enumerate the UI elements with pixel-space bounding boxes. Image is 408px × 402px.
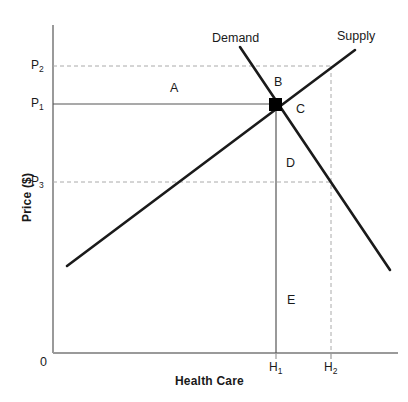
- region-label-e: E: [287, 294, 295, 307]
- y-tick-label-p2-base: P: [31, 58, 39, 72]
- x-axis-title: Health Care: [175, 375, 244, 387]
- y-tick-label-p3-sub: 3: [39, 180, 44, 190]
- y-tick-label-p1: P1: [31, 97, 44, 109]
- y-tick-label-p2: P2: [31, 59, 44, 71]
- supply-curve-label: Supply: [337, 30, 375, 43]
- equilibrium-point-marker: [269, 98, 282, 111]
- y-tick-label-p1-base: P: [31, 96, 39, 110]
- x-tick-label-h1-sub: 1: [278, 366, 283, 376]
- region-label-b: B: [274, 76, 282, 89]
- x-tick-label-h2-base: H: [324, 360, 333, 374]
- x-tick-label-h2-sub: 2: [333, 366, 338, 376]
- region-label-c: C: [296, 103, 305, 116]
- x-tick-label-h1: H1: [269, 361, 282, 373]
- region-label-a: A: [170, 82, 178, 95]
- y-tick-label-p3: P3: [31, 175, 44, 187]
- chart-canvas: [0, 0, 408, 402]
- y-tick-label-p3-base: P: [31, 174, 39, 188]
- supply-curve: [67, 50, 355, 266]
- origin-label: 0: [40, 356, 47, 369]
- x-tick-label-h1-base: H: [269, 360, 278, 374]
- region-label-d: D: [286, 157, 295, 170]
- supply-demand-chart: Price ($) Health Care 0 P2 P1 P3 H1 H2 D…: [0, 0, 408, 402]
- y-tick-label-p2-sub: 2: [39, 64, 44, 74]
- demand-curve-label: Demand: [212, 32, 259, 45]
- y-tick-label-p1-sub: 1: [39, 102, 44, 112]
- x-tick-label-h2: H2: [324, 361, 337, 373]
